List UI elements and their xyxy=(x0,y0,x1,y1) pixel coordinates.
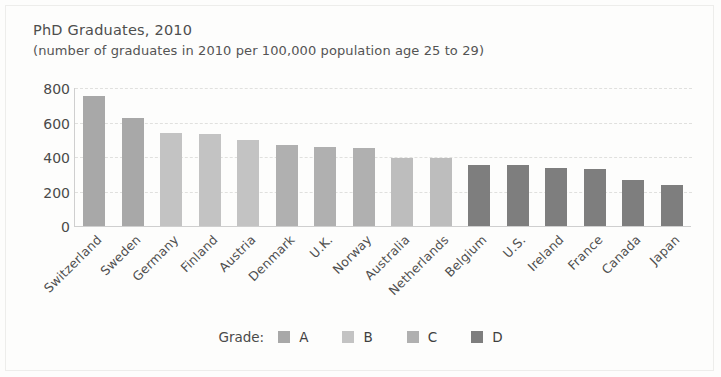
x-label-slot: U.S. xyxy=(499,230,538,320)
bar-slot xyxy=(229,88,268,226)
plot-wrapper xyxy=(74,88,691,227)
y-axis: 0200400600800 xyxy=(0,88,70,227)
bar xyxy=(661,185,683,226)
bar-slot xyxy=(114,88,153,226)
bar xyxy=(199,134,221,226)
legend-label: C xyxy=(428,329,437,345)
x-label-slot: Japan xyxy=(653,230,692,320)
bar-slot xyxy=(653,88,692,226)
phd-graduates-bar-chart: PhD Graduates, 2010 (number of graduates… xyxy=(0,0,721,377)
bar-slot xyxy=(306,88,345,226)
bar xyxy=(430,158,452,226)
y-axis-tick-label: 200 xyxy=(8,185,70,201)
chart-title: PhD Graduates, 2010 xyxy=(33,22,192,38)
bar xyxy=(314,147,336,226)
bar xyxy=(468,165,490,226)
bar-slot xyxy=(614,88,653,226)
x-label-slot: Ireland xyxy=(537,230,576,320)
bar xyxy=(122,118,144,226)
bar xyxy=(160,133,182,226)
x-axis-tick-label: U.K. xyxy=(307,232,336,261)
bar xyxy=(545,168,567,226)
bar-series xyxy=(75,88,691,226)
legend-entry-d: D xyxy=(471,329,502,345)
chart-subtitle: (number of graduates in 2010 per 100,000… xyxy=(33,43,484,58)
x-label-slot: Denmark xyxy=(268,230,307,320)
y-axis-tick-label: 0 xyxy=(8,219,70,235)
legend-swatch-icon xyxy=(407,331,419,343)
x-label-slot: Germany xyxy=(152,230,191,320)
legend-title: Grade: xyxy=(218,329,264,345)
bar-slot xyxy=(422,88,461,226)
legend-label: A xyxy=(299,329,308,345)
bar-slot xyxy=(383,88,422,226)
legend-swatch-icon xyxy=(278,331,290,343)
bar-slot xyxy=(345,88,384,226)
bar-slot xyxy=(499,88,538,226)
x-axis-tick-label: Switzerland xyxy=(41,232,105,296)
bar xyxy=(237,140,259,226)
legend-entry-c: C xyxy=(407,329,437,345)
x-axis-tick-label: Japan xyxy=(646,232,682,268)
x-label-slot: Finland xyxy=(191,230,230,320)
y-axis-tick-label: 400 xyxy=(8,150,70,166)
legend-swatch-icon xyxy=(471,331,483,343)
bar xyxy=(391,158,413,226)
bar-slot xyxy=(75,88,114,226)
bar-slot xyxy=(268,88,307,226)
bar xyxy=(83,96,105,226)
legend-label: B xyxy=(363,329,372,345)
bar xyxy=(622,180,644,226)
bar-slot xyxy=(152,88,191,226)
bar-slot xyxy=(191,88,230,226)
chart-legend: Grade: ABCD xyxy=(0,329,721,345)
legend-swatch-icon xyxy=(342,331,354,343)
legend-entry-a: A xyxy=(278,329,308,345)
x-label-slot: Belgium xyxy=(460,230,499,320)
bar xyxy=(584,169,606,226)
legend-entries: ABCD xyxy=(278,329,502,345)
bar xyxy=(507,165,529,226)
y-axis-tick-label: 800 xyxy=(8,81,70,97)
bar-slot xyxy=(576,88,615,226)
bar-slot xyxy=(537,88,576,226)
bar xyxy=(276,145,298,226)
y-axis-tick-label: 600 xyxy=(8,116,70,132)
legend-label: D xyxy=(492,329,502,345)
x-axis-tick-label: U.S. xyxy=(499,232,528,261)
bar xyxy=(353,148,375,226)
bar-slot xyxy=(460,88,499,226)
x-label-slot: Canada xyxy=(614,230,653,320)
x-axis-labels: SwitzerlandSwedenGermanyFinlandAustriaDe… xyxy=(75,230,691,320)
legend-entry-b: B xyxy=(342,329,372,345)
